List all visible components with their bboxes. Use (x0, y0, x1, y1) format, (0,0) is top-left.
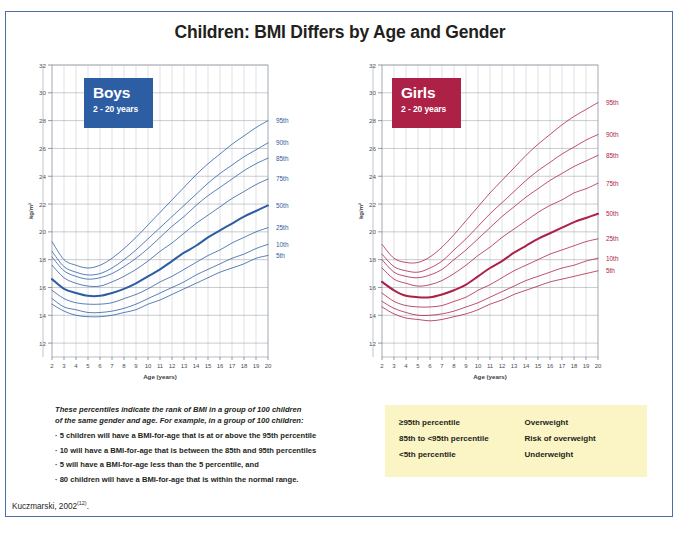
svg-text:2: 2 (50, 363, 54, 369)
svg-text:6: 6 (98, 363, 102, 369)
svg-text:20: 20 (265, 363, 272, 369)
svg-text:Age (years): Age (years) (473, 373, 507, 380)
svg-text:15: 15 (205, 363, 212, 369)
notes-intro-line-2: of the same gender and age. For example,… (55, 415, 385, 426)
svg-text:2: 2 (380, 363, 384, 369)
svg-text:20: 20 (595, 363, 602, 369)
notes-bullet: · 80 children will have a BMI-for-age th… (55, 474, 385, 485)
svg-text:7: 7 (110, 363, 114, 369)
svg-text:75th: 75th (606, 180, 619, 187)
svg-text:18: 18 (241, 363, 248, 369)
citation-text: Kuczmarski, 2002 (12, 502, 77, 511)
svg-text:85th: 85th (276, 155, 289, 162)
legend-row: 85th to <95th percentile Risk of overwei… (399, 434, 596, 450)
svg-text:85th: 85th (606, 152, 619, 159)
svg-text:4: 4 (404, 363, 408, 369)
svg-text:12: 12 (169, 363, 176, 369)
svg-text:8: 8 (452, 363, 456, 369)
svg-text:50th: 50th (606, 210, 619, 217)
legend-row: ≥95th percentile Overweight (399, 418, 596, 434)
svg-text:50th: 50th (276, 202, 289, 209)
svg-text:10th: 10th (606, 255, 619, 262)
svg-text:18: 18 (571, 363, 578, 369)
notes-bullet: · 10 will have a BMI-for-age that is bet… (55, 445, 385, 456)
svg-text:13: 13 (511, 363, 518, 369)
legend-label: Underweight (489, 450, 596, 466)
svg-text:90th: 90th (276, 139, 289, 146)
chart-panel-boys: 1214161820222426283032234567891011121314… (22, 57, 340, 387)
svg-text:5th: 5th (606, 267, 615, 274)
svg-text:11: 11 (157, 363, 164, 369)
svg-text:3: 3 (62, 363, 66, 369)
bmi-chart-boys: 1214161820222426283032234567891011121314… (22, 57, 340, 387)
svg-text:4: 4 (74, 363, 78, 369)
svg-text:15: 15 (535, 363, 542, 369)
svg-text:kg/m²: kg/m² (28, 203, 34, 219)
svg-text:10th: 10th (276, 241, 289, 248)
badge-girls-subtitle: 2 - 20 years (401, 104, 461, 114)
svg-text:kg/m²: kg/m² (358, 203, 364, 219)
chart-panel-girls: 1214161820222426283032234567891011121314… (352, 57, 670, 387)
svg-text:9: 9 (134, 363, 138, 369)
svg-text:13: 13 (181, 363, 188, 369)
svg-text:3: 3 (392, 363, 396, 369)
notes-bullet: · 5 will have a BMI-for-age less than th… (55, 459, 385, 470)
svg-text:5: 5 (86, 363, 90, 369)
legend-range: ≥95th percentile (399, 418, 489, 434)
svg-text:16: 16 (217, 363, 224, 369)
legend-label: Risk of overweight (489, 434, 596, 450)
svg-text:12: 12 (499, 363, 506, 369)
svg-text:17: 17 (229, 363, 236, 369)
badge-boys: Boys 2 - 20 years (84, 78, 153, 128)
svg-text:Age (years): Age (years) (143, 373, 177, 380)
badge-girls: Girls 2 - 20 years (392, 78, 461, 128)
svg-text:75th: 75th (276, 175, 289, 182)
citation: Kuczmarski, 2002(12). (12, 500, 89, 511)
svg-text:16: 16 (547, 363, 554, 369)
citation-ref: (12) (77, 500, 87, 506)
legend-range: <5th percentile (399, 450, 489, 466)
notes-intro-line-1: These percentiles indicate the rank of B… (55, 404, 385, 415)
svg-text:14: 14 (193, 363, 200, 369)
weight-status-legend: ≥95th percentile Overweight 85th to <95t… (385, 405, 647, 477)
svg-text:19: 19 (583, 363, 590, 369)
explanatory-notes: These percentiles indicate the rank of B… (55, 404, 385, 485)
svg-text:95th: 95th (276, 117, 289, 124)
svg-text:10: 10 (145, 363, 152, 369)
svg-text:11: 11 (487, 363, 494, 369)
citation-suffix: . (87, 502, 89, 511)
legend-row: <5th percentile Underweight (399, 450, 596, 466)
page-title: Children: BMI Differs by Age and Gender (0, 22, 680, 43)
svg-text:8: 8 (122, 363, 126, 369)
svg-text:14: 14 (523, 363, 530, 369)
svg-text:25th: 25th (276, 224, 289, 231)
svg-text:5th: 5th (276, 252, 285, 259)
badge-boys-title: Boys (93, 84, 153, 101)
svg-text:9: 9 (464, 363, 468, 369)
svg-text:90th: 90th (606, 131, 619, 138)
badge-girls-title: Girls (401, 84, 461, 101)
svg-text:6: 6 (428, 363, 432, 369)
svg-text:95th: 95th (606, 99, 619, 106)
legend-table: ≥95th percentile Overweight 85th to <95t… (399, 418, 596, 466)
legend-label: Overweight (489, 418, 596, 434)
svg-text:5: 5 (416, 363, 420, 369)
legend-range: 85th to <95th percentile (399, 434, 489, 450)
svg-text:25th: 25th (606, 235, 619, 242)
badge-boys-subtitle: 2 - 20 years (93, 104, 153, 114)
notes-bullet: · 5 children will have a BMI-for-age tha… (55, 430, 385, 441)
svg-text:10: 10 (475, 363, 482, 369)
svg-text:7: 7 (440, 363, 444, 369)
svg-text:17: 17 (559, 363, 566, 369)
svg-text:19: 19 (253, 363, 260, 369)
